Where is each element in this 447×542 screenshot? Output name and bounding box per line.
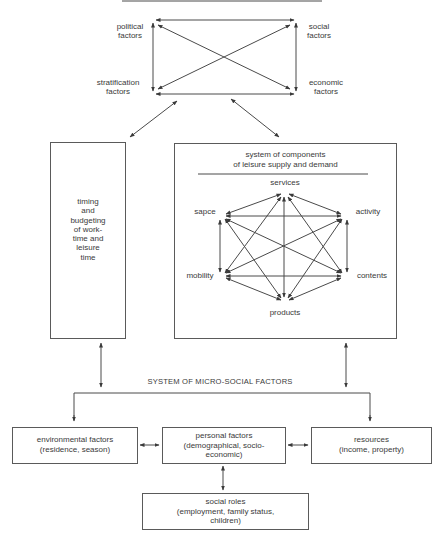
personal-detail-2: economic) (163, 450, 285, 460)
node-space: sapce (191, 207, 219, 216)
social-roles-detail-1: (employment, family status, (143, 507, 308, 517)
timing-line: budgeting (51, 216, 125, 225)
social-roles-title: social roles (143, 497, 308, 507)
timing-line: time and (51, 234, 125, 243)
node-products: products (262, 308, 308, 317)
node-mobility: mobility (183, 271, 217, 280)
node-activity: activity (350, 207, 386, 216)
timing-line: timing (51, 197, 125, 206)
components-title-line1: system of components (175, 150, 396, 160)
environmental-detail: (residence, season) (13, 445, 137, 455)
timing-line: leisure (51, 243, 125, 252)
timing-line: and (51, 206, 125, 215)
timing-line: time (51, 253, 125, 262)
personal-factors-box: personal factors (demographical, socio- … (162, 427, 286, 464)
resources-box: resources (income, property) (311, 427, 432, 464)
label-economic-factors: economic factors (302, 78, 350, 96)
node-services: services (262, 178, 308, 187)
micro-social-title: SYSTEM OF MICRO-SOCIAL FACTORS (130, 377, 310, 386)
resources-detail: (income, property) (312, 445, 431, 455)
timing-budgeting-box: timing and budgeting of work- time and l… (50, 142, 126, 339)
environmental-title: environmental factors (13, 435, 137, 445)
label-social-factors: social factors (300, 22, 338, 40)
components-title-line2: of leisure supply and demand (175, 160, 396, 170)
personal-title: personal factors (163, 431, 285, 441)
social-roles-detail-2: children) (143, 516, 308, 526)
resources-title: resources (312, 435, 431, 445)
label-political-factors: political factors (108, 22, 152, 40)
node-contents: contents (352, 271, 392, 280)
label-stratification-factors: stratification factors (90, 78, 146, 96)
environmental-factors-box: environmental factors (residence, season… (12, 427, 138, 464)
timing-line: of work- (51, 225, 125, 234)
personal-detail-1: (demographical, socio- (163, 441, 285, 451)
social-roles-box: social roles (employment, family status,… (142, 493, 309, 530)
